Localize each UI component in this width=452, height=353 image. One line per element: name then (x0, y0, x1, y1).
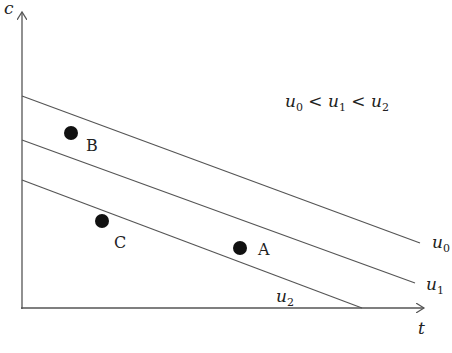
relation-annotation: u0 < u1 < u2 (285, 91, 389, 114)
point-a (233, 241, 247, 255)
line-u0 (22, 96, 420, 243)
point-b (64, 126, 78, 140)
line-u1 (22, 140, 415, 283)
point-b-label: B (86, 136, 98, 155)
label-u0: u0 (432, 232, 450, 255)
point-c (95, 214, 109, 228)
indifference-diagram: c t u0 u1 u2 u0 < u1 < u2 B C A (0, 0, 452, 353)
point-a-label: A (257, 240, 270, 259)
line-u2 (22, 180, 362, 308)
label-u2: u2 (276, 286, 294, 309)
y-axis-label: c (4, 0, 14, 18)
x-axis-label: t (418, 318, 425, 338)
label-u1: u1 (426, 274, 444, 297)
point-c-label: C (114, 233, 126, 252)
